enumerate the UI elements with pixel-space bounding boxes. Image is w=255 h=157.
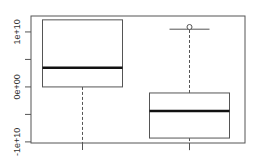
box-iqr <box>150 93 230 138</box>
box-iqr <box>43 20 123 87</box>
y-tick-label: -1e+10 <box>12 128 22 156</box>
box-group-1 <box>43 20 123 150</box>
box-group-2 <box>150 24 230 150</box>
boxes-layer <box>43 20 230 150</box>
boxplot-chart: -1e+100e+001e+10 <box>0 0 255 157</box>
y-tick-label: 1e+10 <box>12 19 22 44</box>
y-tick-label: 0e+00 <box>12 74 22 99</box>
outlier-point <box>187 24 192 29</box>
